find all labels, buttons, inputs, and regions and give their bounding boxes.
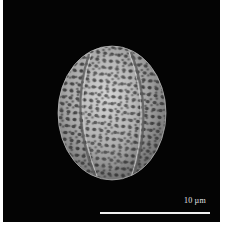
scale-bar-label: 10 µm — [184, 196, 206, 205]
micrograph-panel — [3, 0, 220, 222]
scale-bar — [100, 212, 210, 214]
pollen-grain — [3, 0, 220, 222]
